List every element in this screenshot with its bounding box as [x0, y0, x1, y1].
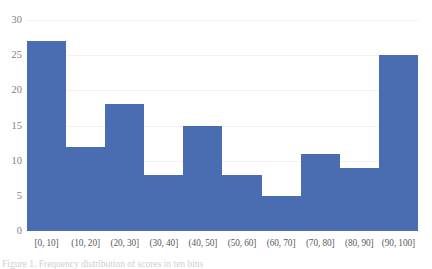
bar: [301, 154, 340, 231]
figure-caption: Figure 1. Frequency distribution of scor…: [2, 260, 430, 269]
y-tick-label: 5: [17, 191, 22, 202]
bar: [27, 41, 66, 231]
y-axis: 30 25 20 15 10 5 0: [0, 0, 27, 252]
x-tick-label: (20, 30]: [105, 234, 144, 252]
figure-caption-text: Figure 1. Frequency distribution of scor…: [2, 260, 430, 269]
chart-canvas: 30 25 20 15 10 5 0: [0, 0, 432, 252]
x-tick-label: (40, 50]: [183, 234, 222, 252]
bar: [379, 55, 418, 231]
bar-series: [27, 20, 418, 231]
bar-slot: [66, 20, 105, 231]
x-tick-label: (30, 40]: [144, 234, 183, 252]
x-axis: [0, 10] (10, 20] (20, 30] (30, 40] (40, …: [27, 234, 418, 252]
bar-slot: [301, 20, 340, 231]
bar-slot: [222, 20, 261, 231]
bar-slot: [105, 20, 144, 231]
x-tick-label: (80, 90]: [340, 234, 379, 252]
x-tick-label: (50, 60]: [222, 234, 261, 252]
bar-slot: [183, 20, 222, 231]
y-tick-label: 15: [12, 120, 23, 131]
bar: [262, 196, 301, 231]
y-tick-label: 30: [12, 15, 23, 26]
x-tick-label: (60, 70]: [262, 234, 301, 252]
y-tick-label: 0: [17, 226, 22, 237]
bar-slot: [340, 20, 379, 231]
x-tick-label: (90, 100]: [379, 234, 418, 252]
bar-slot: [27, 20, 66, 231]
bar-slot: [262, 20, 301, 231]
y-tick-label: 10: [12, 155, 23, 166]
bar: [183, 126, 222, 232]
histogram-figure: 30 25 20 15 10 5 0: [0, 0, 432, 269]
bar: [340, 168, 379, 231]
bar: [66, 147, 105, 231]
bar: [144, 175, 183, 231]
plot-area: [27, 20, 418, 231]
bar-slot: [144, 20, 183, 231]
bar-slot: [379, 20, 418, 231]
x-tick-label: [0, 10]: [27, 234, 66, 252]
y-tick-label: 20: [12, 85, 23, 96]
bar: [105, 104, 144, 231]
bar: [222, 175, 261, 231]
x-tick-label: (10, 20]: [66, 234, 105, 252]
y-tick-label: 25: [12, 50, 23, 61]
x-tick-label: (70, 80]: [301, 234, 340, 252]
